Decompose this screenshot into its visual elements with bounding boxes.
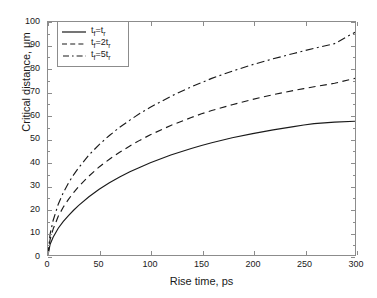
- x-axis-tick: [48, 22, 49, 26]
- y-axis-tick: [48, 116, 52, 117]
- x-axis-tick: [254, 22, 255, 26]
- y-axis-minor-tick: [353, 57, 355, 58]
- x-axis-tick: [151, 251, 152, 255]
- series-line-tf-eq-2tr: [48, 78, 355, 255]
- y-axis-tick: [48, 69, 52, 70]
- x-axis-tick: [203, 251, 204, 255]
- y-axis-minor-tick: [48, 104, 50, 105]
- y-axis-tick: [351, 116, 355, 117]
- y-tick-label: 20: [6, 205, 40, 214]
- x-tick-label: 0: [27, 260, 67, 269]
- y-tick-label: 10: [6, 228, 40, 237]
- legend-box: tf=tr tf=2tr tf=5tr: [57, 21, 129, 67]
- y-axis-minor-tick: [48, 175, 50, 176]
- y-axis-tick: [351, 22, 355, 23]
- y-axis-minor-tick: [353, 245, 355, 246]
- legend-line-sample-solid: [61, 27, 87, 37]
- y-axis-tick: [351, 234, 355, 235]
- y-axis-tick: [48, 257, 52, 258]
- y-axis-tick: [48, 234, 52, 235]
- y-tick-label: 80: [6, 64, 40, 73]
- y-axis-minor-tick: [48, 128, 50, 129]
- y-axis-minor-tick: [353, 151, 355, 152]
- y-axis-tick: [351, 69, 355, 70]
- y-axis-tick: [351, 46, 355, 47]
- figure-canvas: Critical distance, μm 010203040506070809…: [0, 0, 377, 298]
- legend-line-sample-dashed: [61, 39, 87, 49]
- x-axis-tick: [357, 22, 358, 26]
- y-axis-tick: [48, 93, 52, 94]
- y-axis-tick: [48, 163, 52, 164]
- y-axis-minor-tick: [48, 151, 50, 152]
- y-axis-minor-tick: [353, 81, 355, 82]
- legend-label-tf-eq-5tr: tf=5tr: [91, 50, 111, 62]
- y-axis-minor-tick: [48, 81, 50, 82]
- y-tick-label: 100: [6, 17, 40, 26]
- x-axis-tick: [254, 251, 255, 255]
- y-tick-label: 40: [6, 158, 40, 167]
- y-axis-tick: [48, 140, 52, 141]
- y-axis-minor-tick: [353, 175, 355, 176]
- y-axis-tick: [48, 187, 52, 188]
- y-axis-tick: [351, 257, 355, 258]
- series-line-tf-eq-tr: [48, 121, 355, 255]
- x-axis-tick: [151, 22, 152, 26]
- x-axis-tick: [306, 22, 307, 26]
- y-axis-minor-tick: [353, 128, 355, 129]
- x-axis-tick: [203, 22, 204, 26]
- x-tick-label: 150: [182, 260, 222, 269]
- y-axis-tick: [351, 140, 355, 141]
- y-axis-minor-tick: [353, 104, 355, 105]
- x-axis-title: Rise time, ps: [47, 275, 356, 287]
- y-axis-minor-tick: [48, 198, 50, 199]
- y-axis-tick: [351, 93, 355, 94]
- y-axis-tick: [48, 210, 52, 211]
- x-axis-tick: [100, 251, 101, 255]
- x-tick-label: 100: [130, 260, 170, 269]
- y-tick-label: 50: [6, 134, 40, 143]
- legend-item-tf-eq-5tr: tf=5tr: [61, 50, 124, 62]
- x-tick-label: 200: [233, 260, 273, 269]
- x-tick-label: 50: [79, 260, 119, 269]
- y-axis-minor-tick: [353, 222, 355, 223]
- x-tick-label: 300: [336, 260, 376, 269]
- x-axis-tick: [306, 251, 307, 255]
- x-axis-tick: [48, 251, 49, 255]
- y-axis-tick: [351, 187, 355, 188]
- legend-line-sample-dash-dot: [61, 51, 87, 61]
- y-tick-label: 30: [6, 181, 40, 190]
- y-axis-minor-tick: [48, 57, 50, 58]
- x-axis-tick: [357, 251, 358, 255]
- x-tick-label: 250: [285, 260, 325, 269]
- y-axis-minor-tick: [48, 245, 50, 246]
- y-axis-minor-tick: [353, 34, 355, 35]
- y-tick-label: 60: [6, 111, 40, 120]
- y-axis-tick: [48, 46, 52, 47]
- y-axis-minor-tick: [48, 34, 50, 35]
- y-axis-tick: [351, 163, 355, 164]
- y-tick-label: 90: [6, 40, 40, 49]
- y-axis-minor-tick: [48, 222, 50, 223]
- y-tick-label: 70: [6, 87, 40, 96]
- y-axis-tick: [351, 210, 355, 211]
- y-axis-minor-tick: [353, 198, 355, 199]
